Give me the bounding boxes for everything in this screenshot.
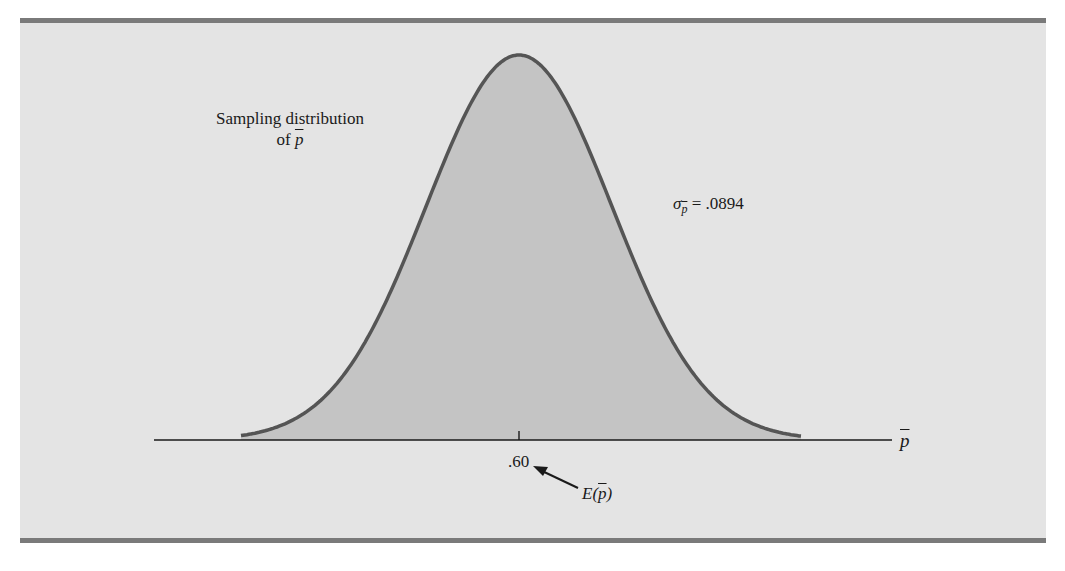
title-line1: Sampling distribution [192, 108, 388, 129]
tick-label-mean: .60 [508, 452, 529, 472]
sigma-value: = .0894 [687, 194, 743, 213]
expectation-label: E(p) [582, 484, 612, 504]
title-annotation: Sampling distribution of p [192, 108, 388, 150]
title-line2: of p [192, 129, 388, 150]
arrow-head [533, 466, 548, 476]
x-axis-label: p [900, 430, 910, 452]
sigma-annotation: σp = .0894 [673, 194, 744, 217]
expectation-arrow [540, 470, 578, 488]
normal-curve-plot [0, 0, 1065, 571]
